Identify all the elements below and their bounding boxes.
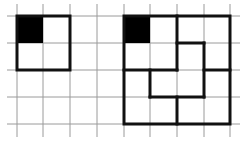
puzzle-diagram (0, 0, 250, 151)
filled-cell (17, 16, 43, 43)
filled-cell (124, 16, 150, 43)
large-square-partitioned (124, 16, 230, 124)
